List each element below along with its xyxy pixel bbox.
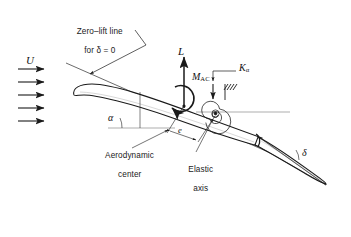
angle-of-attack-label: α	[108, 112, 113, 123]
freestream-arrows	[18, 69, 44, 121]
zero-lift-line-label-line1: Zero–lift line	[77, 27, 123, 36]
flap-deflection-angle	[296, 150, 299, 160]
spring-ground-support	[224, 84, 237, 100]
flap-body	[255, 137, 326, 184]
aerodynamic-center-label-line1: Aerodynamic	[105, 151, 154, 160]
elastic-axis-label: Elastic axis	[168, 155, 224, 203]
aerodynamic-moment-subscript: AC	[200, 75, 210, 82]
freestream-velocity-label: U	[26, 54, 34, 66]
zero-lift-line-label: Zero–lift line for δ = 0	[52, 17, 138, 65]
aerodynamic-moment-label: MAC	[192, 71, 210, 82]
lift-force-label: L	[178, 45, 184, 57]
aerodynamic-center-label: Aerodynamic center	[86, 141, 164, 189]
torsional-spring-subscript: α	[246, 66, 250, 73]
elastic-axis-label-line2: axis	[193, 184, 208, 193]
torsional-spring-label: Kα	[239, 62, 249, 73]
aerodynamic-center-label-line2: center	[118, 170, 141, 179]
torsional-spring-symbol: K	[239, 62, 246, 73]
figure-root: Zero–lift line for δ = 0 Aerodynamic cen…	[0, 0, 351, 237]
flap-deflection-label: δ	[302, 147, 307, 158]
angle-of-attack-arc	[120, 118, 122, 128]
elastic-axis-label-line1: Elastic	[188, 165, 213, 174]
torsional-spring-leader	[213, 71, 236, 81]
airfoil-body	[74, 84, 262, 146]
zero-lift-line-label-line2: for δ = 0	[84, 46, 115, 55]
offset-distance-label: e	[178, 125, 182, 135]
